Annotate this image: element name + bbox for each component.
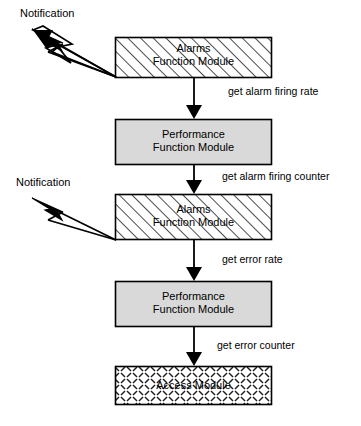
node-box-access [116, 367, 272, 405]
diagram-canvas [0, 0, 361, 426]
edge-arrow-4 [186, 327, 202, 366]
node-box-performance-1 [116, 120, 272, 165]
flow-diagram: Alarms Function Module Performance Funct… [0, 0, 361, 426]
edge-arrow-1 [186, 78, 202, 119]
node-box-alarms-2 [116, 195, 272, 240]
edge-label-get-alarm-firing-rate: get alarm firing rate [228, 85, 318, 97]
notification-label-2: Notification [16, 176, 70, 189]
node-box-performance-2 [116, 282, 272, 327]
edge-arrow-2 [186, 165, 202, 194]
edge-label-get-error-counter: get error counter [217, 339, 295, 351]
edge-label-get-error-rate: get error rate [222, 253, 283, 265]
notification-arrow-1 [32, 26, 116, 77]
edge-arrow-3 [186, 240, 202, 281]
edge-label-get-alarm-firing-counter: get alarm firing counter [222, 170, 329, 182]
notification-arrow-2 [32, 198, 116, 240]
notification-label-1: Notification [20, 7, 74, 20]
node-box-alarms-1 [116, 38, 272, 78]
